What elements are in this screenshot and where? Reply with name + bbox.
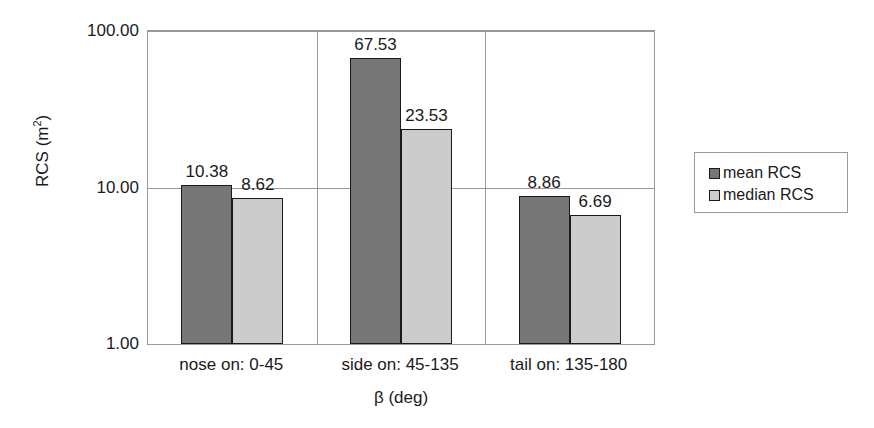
bar-median	[401, 129, 452, 344]
bar-value-label: 67.53	[354, 36, 397, 53]
plot-area: 10.388.6267.5323.538.866.69	[147, 30, 655, 345]
bar-value-label: 23.53	[405, 107, 448, 124]
legend-swatch-icon	[709, 168, 720, 179]
bar-mean	[181, 185, 232, 344]
legend-swatch-icon	[709, 190, 720, 201]
x-axis-title: β (deg)	[147, 388, 655, 408]
legend-item: median RCS	[709, 184, 847, 206]
chart-legend: mean RCSmedian RCS	[694, 152, 848, 213]
bar-median	[570, 215, 621, 344]
gridline-y	[148, 344, 654, 345]
bar-value-label: 8.86	[528, 174, 561, 191]
bar-value-label: 6.69	[579, 193, 612, 210]
y-tick-label: 10.00	[49, 178, 139, 195]
bar-mean	[350, 58, 401, 344]
gridline-y	[148, 31, 654, 32]
chart-figure: RCS (m2) 1.0010.00100.00 10.388.6267.532…	[0, 0, 874, 428]
bar-mean	[519, 196, 570, 344]
category-separator	[317, 31, 318, 344]
category-separator	[485, 31, 486, 344]
y-axis-tick-labels: 1.0010.00100.00	[43, 30, 139, 345]
bar-value-label: 10.38	[186, 163, 229, 180]
y-tick-label: 100.00	[49, 22, 139, 39]
bar-median	[232, 198, 283, 344]
legend-item-label: mean RCS	[723, 164, 801, 182]
bar-value-label: 8.62	[241, 176, 274, 193]
legend-item-label: median RCS	[723, 186, 814, 204]
category-label: tail on: 135-180	[510, 355, 627, 375]
y-tick-label: 1.00	[49, 335, 139, 352]
y-axis-title-exponent: 2	[31, 120, 43, 126]
category-label: side on: 45-135	[341, 355, 458, 375]
category-label: nose on: 0-45	[179, 355, 283, 375]
x-axis-category-labels: nose on: 0-45side on: 45-135tail on: 135…	[147, 355, 655, 379]
legend-item: mean RCS	[709, 162, 847, 184]
